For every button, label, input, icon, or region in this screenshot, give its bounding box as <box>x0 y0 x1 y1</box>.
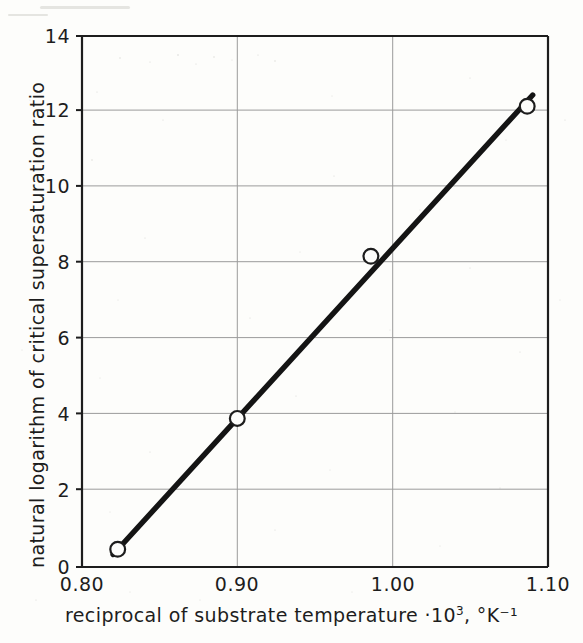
figure-canvas: 14 12 10 8 6 4 2 0 0.80 0.90 1.00 1.10 r… <box>0 0 583 643</box>
data-point <box>230 411 245 426</box>
grid-horizontal <box>82 110 548 489</box>
y-axis-label: natural logarithm of critical supersatur… <box>26 82 48 568</box>
x-tick-label-0-80: 0.80 <box>40 573 124 595</box>
x-axis-label: reciprocal of substrate temperature ·103… <box>0 604 583 626</box>
axis-frame <box>82 36 548 567</box>
data-point <box>110 542 125 557</box>
fitted-trend-line <box>113 95 533 555</box>
y-tick-label-14: 14 <box>16 25 70 47</box>
x-tick-label-0-90: 0.90 <box>195 573 279 595</box>
data-point <box>520 99 535 114</box>
x-tick-label-1-00: 1.00 <box>351 573 435 595</box>
x-axis-label-exponent: 3 <box>456 604 464 618</box>
grid-vertical <box>237 36 392 567</box>
x-axis-label-tail: , °K⁻¹ <box>464 604 518 626</box>
chart-plot-area <box>0 0 583 643</box>
x-axis-label-text: reciprocal of substrate temperature ·10 <box>65 604 456 626</box>
data-point <box>364 249 379 264</box>
x-tick-label-1-10: 1.10 <box>506 573 583 595</box>
